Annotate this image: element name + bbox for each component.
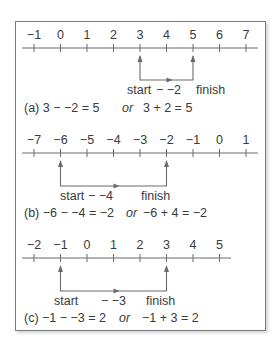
tick-label: −1 [53, 238, 67, 252]
tick-label: −5 [80, 133, 94, 147]
tick-label: 2 [137, 238, 144, 252]
number-line-b: −7−6−5−4−3−2−101 [22, 133, 258, 189]
finish-label-c: finish [146, 294, 175, 308]
jump-bracket [61, 161, 167, 186]
panel-c: −2−1012345 start − −3 finish (c) −1 − −3… [22, 238, 231, 325]
arrowhead-up-icon [58, 265, 63, 272]
equation-right-b: −6 + 4 = −2 [143, 206, 207, 220]
or-label-b: or [126, 206, 138, 220]
tick-label: 0 [57, 28, 64, 42]
equation-left-c: (c) −1 − −3 = 2 [24, 311, 106, 325]
jump-bracket [61, 266, 167, 291]
tick-label: −7 [27, 133, 41, 147]
number-line-diagram: −101234567 start − −2 finish (a) 3 − −2 … [0, 0, 277, 346]
tick-label: 4 [163, 28, 170, 42]
tick-label: 2 [110, 28, 117, 42]
arrowhead-right-icon [114, 184, 120, 189]
step-label-c: − −3 [101, 294, 126, 308]
tick-label: 1 [84, 28, 91, 42]
or-label-c: or [119, 311, 131, 325]
jump-bracket [140, 56, 193, 80]
tick-label: 3 [137, 28, 144, 42]
tick-label: −4 [106, 133, 120, 147]
tick-label: 7 [243, 28, 250, 42]
tick-label: 5 [216, 238, 223, 252]
arrowhead-up-icon [138, 55, 143, 62]
finish-label-a: finish [196, 83, 225, 97]
or-label-a: or [122, 101, 134, 115]
equation-right-a: 3 + 2 = 5 [143, 101, 192, 115]
arrowhead-right-icon [167, 78, 173, 83]
equation-left-b: (b) −6 − −4 = −2 [24, 206, 114, 220]
start-label-b: start [60, 189, 85, 203]
start-label-c: start [54, 294, 79, 308]
number-line-c: −2−1012345 [22, 238, 231, 294]
arrowhead-up-icon [164, 160, 169, 167]
step-label-a: − −2 [156, 83, 181, 97]
tick-label: −1 [186, 133, 200, 147]
finish-label-b: finish [141, 189, 170, 203]
tick-label: 4 [190, 238, 197, 252]
start-label-a: start [127, 83, 152, 97]
arrowhead-up-icon [191, 55, 196, 62]
equation-right-c: −1 + 3 = 2 [142, 311, 199, 325]
arrowhead-right-icon [114, 289, 120, 294]
panel-b: −7−6−5−4−3−2−101 start − −4 finish (b) −… [22, 133, 258, 220]
tick-label: 0 [216, 133, 223, 147]
tick-label: −6 [53, 133, 67, 147]
tick-label: −1 [27, 28, 41, 42]
arrowhead-up-icon [164, 265, 169, 272]
equation-left-a: (a) 3 − −2 = 5 [24, 101, 99, 115]
tick-label: 5 [190, 28, 197, 42]
tick-label: −2 [27, 238, 41, 252]
tick-label: 6 [216, 28, 223, 42]
tick-label: 1 [243, 133, 250, 147]
step-label-b: − −4 [88, 189, 113, 203]
panel-a: −101234567 start − −2 finish (a) 3 − −2 … [22, 28, 258, 115]
number-line-a: −101234567 [22, 28, 258, 83]
tick-label: 1 [110, 238, 117, 252]
tick-label: −3 [133, 133, 147, 147]
tick-label: 0 [84, 238, 91, 252]
tick-label: −2 [159, 133, 173, 147]
arrowhead-up-icon [58, 160, 63, 167]
tick-label: 3 [163, 238, 170, 252]
